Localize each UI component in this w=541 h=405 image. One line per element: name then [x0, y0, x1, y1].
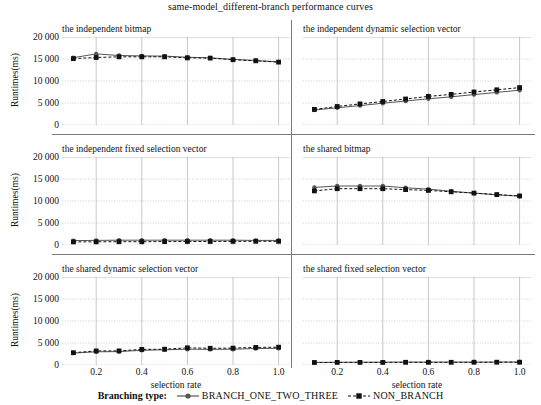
series-line-branch-one-two-three — [314, 186, 519, 196]
data-point-marker — [335, 104, 340, 109]
data-point-marker — [117, 239, 122, 244]
y-axis-tick-label: 20 000 — [33, 152, 62, 162]
legend-entry-non-branch[interactable]: NON_BRANCH — [348, 390, 443, 401]
data-point-marker — [517, 194, 522, 199]
series-line-branch-one-two-three — [73, 54, 278, 62]
data-point-marker — [312, 360, 317, 365]
figure-root: same-model_different-branch performance … — [0, 0, 541, 405]
legend-label-branch-one-two-three: BRANCH_ONE_TWO_THREE — [202, 390, 338, 401]
data-point-marker — [449, 360, 454, 365]
subplot-title: the shared fixed selection vector — [303, 264, 426, 275]
y-axis-tick-label: 5 000 — [38, 98, 62, 108]
x-axis-tick-label: 0.2 — [90, 365, 102, 378]
subplot-grid: the independent bitmap05 00010 00015 000… — [0, 16, 541, 371]
y-axis-tick-label: 0 — [54, 120, 62, 130]
data-point-marker — [494, 192, 499, 197]
data-point-marker — [231, 346, 236, 351]
data-point-marker — [162, 239, 167, 244]
y-axis-tick-label: 15 000 — [33, 54, 62, 64]
y-axis-tick-label: 5 000 — [38, 338, 62, 348]
data-point-marker — [162, 54, 167, 59]
subplot-title: the shared dynamic selection vector — [62, 264, 198, 275]
plot-area: 05 00010 00015 00020 000Runtimes(ms) — [62, 157, 290, 245]
data-point-marker — [403, 187, 408, 192]
x-axis-label: selection rate — [303, 380, 531, 390]
data-point-marker — [312, 107, 317, 112]
data-point-marker — [358, 360, 363, 365]
x-axis-tick-label: 0.6 — [181, 365, 193, 378]
data-point-marker — [139, 239, 144, 244]
data-point-marker — [71, 350, 76, 355]
data-point-marker — [517, 360, 522, 365]
y-axis-tick-label: 20 000 — [33, 272, 62, 282]
data-point-marker — [494, 360, 499, 365]
data-point-marker — [335, 186, 340, 191]
x-axis-tick-label: 0.6 — [422, 365, 434, 378]
y-axis-tick-label: 0 — [54, 240, 62, 250]
data-point-marker — [208, 56, 213, 61]
data-point-marker — [517, 85, 522, 90]
data-point-marker — [358, 102, 363, 107]
y-axis-tick-label: 10 000 — [33, 76, 62, 86]
y-axis-label: Runtimes(ms) — [10, 293, 20, 347]
subplot-5: the shared dynamic selection vector05 00… — [62, 264, 290, 365]
y-axis-tick-label: 20 000 — [33, 32, 62, 42]
legend: Branching type: BRANCH_ONE_TWO_THREE NON… — [0, 390, 541, 401]
data-point-marker — [94, 349, 99, 354]
x-axis-tick-label: 0.2 — [331, 365, 343, 378]
data-point-marker — [117, 54, 122, 59]
y-axis-tick-label: 5 000 — [38, 218, 62, 228]
plot-area: 0.20.40.60.81.0selection rate — [303, 277, 531, 365]
data-point-marker — [472, 360, 477, 365]
legend-swatch-solid-circle — [177, 391, 199, 401]
data-point-marker — [208, 346, 213, 351]
x-axis-label: selection rate — [62, 380, 290, 390]
data-point-marker — [231, 57, 236, 62]
data-point-marker — [358, 186, 363, 191]
subplot-title: the shared bitmap — [303, 144, 371, 155]
x-axis-tick-label: 0.4 — [377, 365, 389, 378]
y-axis-tick-label: 10 000 — [33, 316, 62, 326]
figure-title: same-model_different-branch performance … — [0, 1, 541, 13]
data-point-marker — [494, 87, 499, 92]
data-point-marker — [253, 239, 258, 244]
x-axis-tick-label: 1.0 — [514, 365, 526, 378]
plot-area: 05 00010 00015 00020 000Runtimes(ms)0.20… — [62, 277, 290, 365]
row-separator — [52, 254, 535, 255]
data-point-marker — [276, 60, 281, 65]
data-point-marker — [139, 347, 144, 352]
subplot-3: the independent fixed selection vector05… — [62, 144, 290, 245]
data-point-marker — [312, 189, 317, 194]
data-point-marker — [231, 239, 236, 244]
data-point-marker — [403, 360, 408, 365]
plot-area — [303, 157, 531, 245]
data-point-marker — [276, 239, 281, 244]
data-point-marker — [403, 97, 408, 102]
legend-title: Branching type: — [98, 390, 167, 401]
data-point-marker — [472, 90, 477, 95]
legend-swatch-dashed-square — [348, 391, 370, 401]
row-separator — [52, 134, 535, 135]
y-axis-tick-label: 0 — [54, 360, 62, 370]
data-point-marker — [426, 94, 431, 99]
data-point-marker — [449, 189, 454, 194]
y-axis-label: Runtimes(ms) — [10, 173, 20, 227]
data-point-marker — [185, 345, 190, 350]
x-axis-tick-label: 0.8 — [227, 365, 239, 378]
plot-area — [303, 37, 531, 125]
data-point-marker — [276, 345, 281, 350]
axes-canvas — [303, 277, 531, 365]
subplot-2: the independent dynamic selection vector — [303, 24, 531, 125]
axes-canvas — [62, 157, 290, 245]
data-point-marker — [185, 56, 190, 61]
x-axis-tick-label: 0.8 — [468, 365, 480, 378]
data-point-marker — [117, 349, 122, 354]
legend-entry-branch-one-two-three[interactable]: BRANCH_ONE_TWO_THREE — [177, 390, 338, 401]
series-line-non-branch — [314, 189, 519, 196]
subplot-title: the independent dynamic selection vector — [303, 24, 461, 35]
data-point-marker — [380, 186, 385, 191]
data-point-marker — [380, 99, 385, 104]
data-point-marker — [449, 92, 454, 97]
legend-label-non-branch: NON_BRANCH — [373, 390, 443, 401]
axes-canvas — [62, 37, 290, 125]
